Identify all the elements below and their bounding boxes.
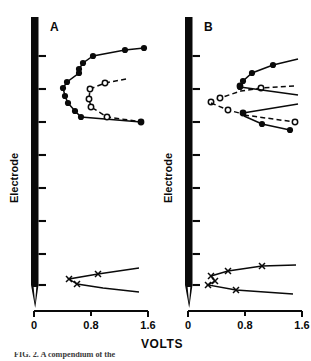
series-b-lower-solid (244, 116, 290, 130)
series-b-lower-dashed-markers (225, 107, 230, 112)
electrode-ticks-b (193, 56, 201, 285)
figure-root: A Electrode (0, 0, 311, 361)
y-axis-label-a: Electrode (8, 153, 20, 203)
x-tick-label-b-1: 0.8 (237, 319, 252, 331)
series-b-upper-solid (240, 59, 298, 86)
series-a-inner-dashed (89, 79, 136, 121)
series-b-upper-dashed-markers (208, 85, 263, 104)
x-tick-label-a-0: 0 (31, 319, 37, 331)
x-tick-label-b-0: 0 (185, 319, 191, 331)
electrode-ticks-a (39, 56, 47, 285)
x-tick-label-a-1: 0.8 (83, 319, 98, 331)
series-b-mid-upper-solid-markers (237, 84, 243, 90)
panel-label-b: B (204, 20, 213, 34)
panel-label-a: A (50, 20, 59, 34)
figure-caption: FIG. 2. A compendium of the (14, 352, 304, 359)
series-b-lower-dashed-right-markers (292, 119, 297, 124)
x-axis-b: 0 0.8 1.6 (185, 311, 310, 331)
y-axis-label-b: Electrode (162, 153, 174, 203)
x-axis-a: 0 0.8 1.6 (31, 311, 156, 331)
panel-a: A Electrode (8, 17, 156, 331)
series-b-mid-lower-solid (243, 104, 298, 113)
electrode-bar-b (185, 17, 193, 285)
x-tick-label-b-2: 1.6 (294, 319, 309, 331)
series-b-lower-dashed-right (244, 115, 295, 122)
x-tick-label-a-2: 1.6 (140, 319, 155, 331)
panel-b: B Electrode (162, 17, 310, 331)
series-b-lower-cross (208, 265, 296, 294)
figure-caption-strip: FIG. 2. A compendium of the (0, 352, 311, 361)
series-a-lower-cross (69, 268, 139, 292)
x-axis-title: VOLTS (141, 337, 183, 351)
figure-svg: A Electrode (0, 0, 311, 361)
electrode-bar-a (31, 17, 39, 285)
